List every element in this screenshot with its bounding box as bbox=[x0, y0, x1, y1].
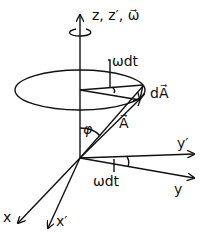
omega-dt-bottom-label: ωdt bbox=[93, 174, 119, 188]
z-axis-label: z, z′, ω⃗ bbox=[92, 8, 139, 22]
phi-label: φ bbox=[83, 122, 92, 136]
omega-dt-top-label: ωdt bbox=[112, 54, 138, 68]
dA-label: dA⃗ bbox=[150, 86, 168, 100]
y-prime-axis bbox=[80, 154, 194, 158]
y-label: y bbox=[174, 182, 182, 196]
A-label: A⃗ bbox=[119, 116, 129, 130]
x-label: x bbox=[3, 210, 11, 224]
rotation-diagram bbox=[0, 0, 203, 232]
x-axis bbox=[18, 158, 80, 223]
y-prime-label: y′ bbox=[177, 136, 188, 150]
x-prime-label: x′ bbox=[56, 214, 67, 228]
